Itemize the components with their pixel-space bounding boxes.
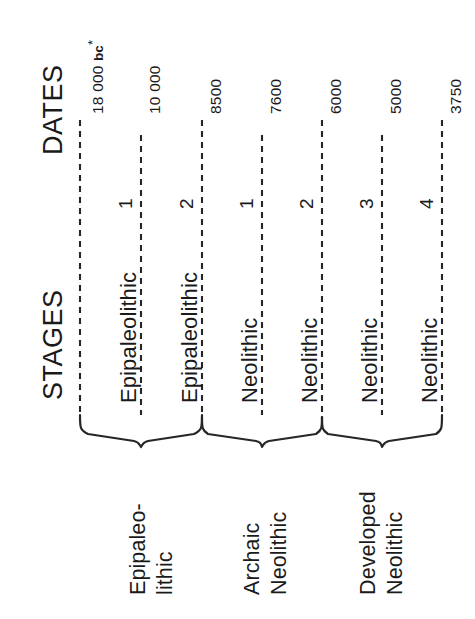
dates-column-header: DATES	[40, 64, 67, 155]
stage-number-1: 1	[116, 198, 135, 209]
stage-number-6: 4	[417, 198, 436, 209]
stage-name-5: Neolithic	[359, 318, 381, 403]
group-brace-developed-neolithic	[322, 415, 442, 447]
stage-name-2: Epipaleolithic	[179, 272, 201, 403]
group-brace-archaic-neolithic	[202, 417, 322, 447]
group-label-2-line-2: Neolithic	[269, 512, 291, 595]
group-label-3-line-1: Developed	[358, 491, 380, 595]
stages-column-header: STAGES	[40, 289, 67, 400]
date-label-1: 18 000 bc*	[86, 40, 106, 114]
stage-name-1: Epipaleolithic	[118, 272, 140, 403]
group-label-1-line-2: lithic	[155, 551, 177, 595]
date-label-7: 3750	[448, 79, 464, 114]
group-label-2-line-1: Archaic	[242, 523, 264, 595]
stage-name-4: Neolithic	[299, 318, 321, 403]
group-brace-epipaleolithic	[80, 415, 202, 447]
chronology-chart: DATES STAGES 18 000 bc* 10 000 8500 7600…	[0, 0, 475, 619]
date-label-6: 5000	[388, 79, 404, 114]
stage-name-3: Neolithic	[239, 318, 261, 403]
date-label-5: 6000	[328, 79, 344, 114]
stage-number-4: 2	[297, 198, 316, 209]
date-value: 18 000	[89, 65, 106, 114]
group-label-3-line-2: Neolithic	[385, 512, 407, 595]
group-label-1-line-1: Epipaleo-	[128, 503, 150, 595]
stage-number-2: 2	[177, 198, 196, 209]
date-era: bc	[91, 45, 106, 61]
stage-number-5: 3	[357, 198, 376, 209]
date-label-4: 7600	[268, 79, 284, 114]
date-label-3: 8500	[208, 79, 224, 114]
date-label-2: 10 000	[147, 65, 163, 114]
stage-number-3: 1	[237, 198, 256, 209]
date-footnote-mark: *	[85, 40, 100, 45]
stage-name-6: Neolithic	[419, 318, 441, 403]
